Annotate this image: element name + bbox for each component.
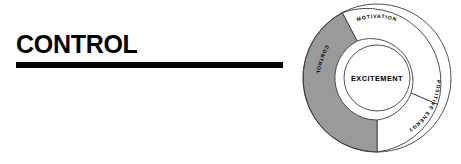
page-title: CONTROL: [16, 30, 286, 58]
title-underline-rule: [16, 62, 283, 68]
hub-label: EXCITEMENT: [351, 74, 403, 83]
donut-chart-svg: EXCITEMENT MOTIVATION POSITIVE ENERGY CO…: [301, 2, 453, 154]
heading-block: CONTROL: [16, 30, 286, 68]
slide-canvas: CONTROL EXCITEMENT: [0, 0, 461, 164]
excitement-wheel-diagram: EXCITEMENT MOTIVATION POSITIVE ENERGY CO…: [301, 2, 453, 154]
